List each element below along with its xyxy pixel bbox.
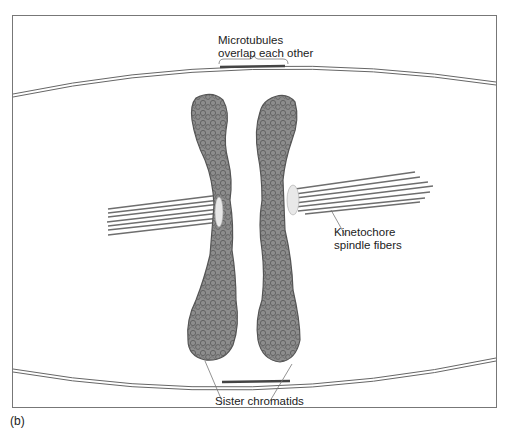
left-chromatid [188, 94, 238, 360]
sister-chromatids-label: Sister chromatids [215, 395, 304, 408]
mitosis-diagram: Microtubules overlap each other Kinetoch… [0, 0, 505, 437]
figure-frame [13, 16, 497, 408]
top-spindle-arc [13, 66, 496, 97]
microtubules-label-line1: Microtubules [218, 34, 313, 47]
left-kinetochore [215, 197, 223, 227]
right-kinetochore [287, 185, 299, 215]
left-spindle-fibers [107, 195, 220, 235]
microtubules-label-line2: overlap each other [218, 47, 313, 60]
microtubules-label: Microtubules overlap each other [218, 34, 313, 60]
panel-label: (b) [10, 414, 25, 428]
right-chromatid [256, 95, 300, 362]
kinetochore-label-line2: spindle fibers [334, 239, 402, 252]
right-spindle-fibers [295, 172, 433, 214]
diagram-canvas [0, 0, 505, 437]
kinetochore-label: Kinetochore spindle fibers [334, 226, 402, 252]
kinetochore-label-line1: Kinetochore [334, 226, 402, 239]
bottom-spindle-arc [13, 358, 496, 390]
